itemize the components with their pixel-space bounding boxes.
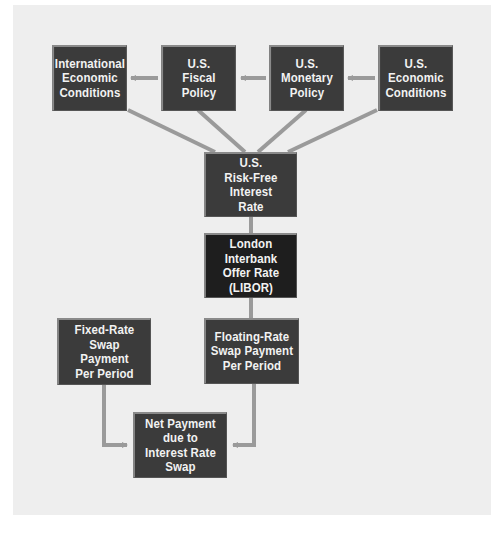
edge-floating-to-net <box>233 384 254 445</box>
edge-fixed-to-net <box>104 385 127 445</box>
node-fixed-rate-swap-payment: Fixed-Rate Swap Payment Per Period <box>57 318 151 385</box>
node-international-economic-conditions: International Economic Conditions <box>52 45 127 111</box>
node-us-economic-conditions: U.S. Economic Conditions <box>378 45 453 111</box>
node-us-monetary-policy: U.S. Monetary Policy <box>269 45 344 111</box>
node-libor: London Interbank Offer Rate (LIBOR) <box>204 233 297 298</box>
node-floating-rate-swap-payment: Floating-Rate Swap Payment Per Period <box>204 318 299 384</box>
edge-international-to-riskfree <box>128 110 215 152</box>
node-us-fiscal-policy: U.S. Fiscal Policy <box>161 45 236 111</box>
node-net-payment: Net Payment due to Interest Rate Swap <box>133 412 227 478</box>
node-us-risk-free-interest-rate: U.S. Risk-Free Interest Rate <box>204 152 297 217</box>
